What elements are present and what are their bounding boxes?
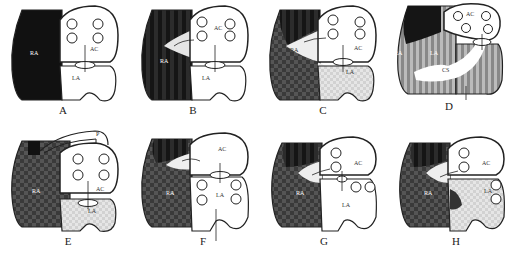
panel-caption: C <box>313 104 333 116</box>
label-la: LA <box>484 188 493 194</box>
panel-caption: A <box>53 104 73 116</box>
label-cs: CS <box>442 67 449 73</box>
panel-b: RA AC LA B <box>130 0 258 126</box>
label-ac: AC <box>214 25 222 31</box>
panel-g: RA AC LA G <box>258 127 386 253</box>
label-ra: RA <box>160 58 169 64</box>
panel-f: RA AC LA F <box>130 127 258 253</box>
panel-caption: E <box>58 235 78 247</box>
panel-c: RA AC LA C <box>258 0 386 126</box>
label-la: LA <box>342 202 351 208</box>
label-la: LA <box>216 192 225 198</box>
label-ra: RA <box>296 190 305 196</box>
label-ac: AC <box>218 146 226 152</box>
label-ac: AC <box>466 11 474 17</box>
panel-caption: G <box>314 235 334 247</box>
label-ac: AC <box>354 160 362 166</box>
label-la: LA <box>72 75 81 81</box>
label-la: LA <box>346 69 355 75</box>
panel-caption: F <box>193 235 213 247</box>
label-ra: RA <box>32 188 41 194</box>
label-ra: RA <box>166 190 175 196</box>
label-ac: AC <box>90 46 98 52</box>
label-ac: AC <box>482 160 490 166</box>
label-la: LA <box>430 50 439 56</box>
label-ra: RA <box>394 50 403 56</box>
panel-a: RA AC LA A <box>0 0 128 126</box>
panel-caption: D <box>439 100 459 112</box>
label-ra: RA <box>30 50 39 56</box>
label-ra: RA <box>424 190 433 196</box>
label-ra: RA <box>290 47 299 53</box>
panel-e: RA AC LA P E <box>0 127 128 253</box>
label-ac: AC <box>96 186 104 192</box>
panel-d: RA LA AC CS D <box>386 0 514 126</box>
label-ac: AC <box>354 45 362 51</box>
label-la: LA <box>202 75 211 81</box>
panel-caption: B <box>183 104 203 116</box>
panel-h: RA AC LA H <box>386 127 514 253</box>
panel-caption: H <box>446 235 466 247</box>
label-la: LA <box>88 208 97 214</box>
